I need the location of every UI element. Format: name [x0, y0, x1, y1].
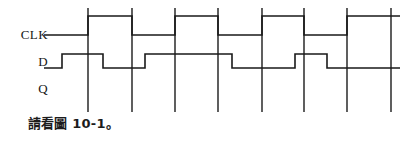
figure-caption: 請看圖 10-1。	[28, 117, 119, 131]
signal-label-clk: CLK	[6, 28, 48, 41]
signal-label-d: D	[6, 55, 48, 68]
timing-diagram-figure: CLK D Q 請看圖 10-1。	[0, 0, 408, 143]
signal-label-q: Q	[6, 82, 48, 95]
waveform-clk	[44, 16, 400, 35]
clock-edge-gridlines	[88, 8, 391, 112]
